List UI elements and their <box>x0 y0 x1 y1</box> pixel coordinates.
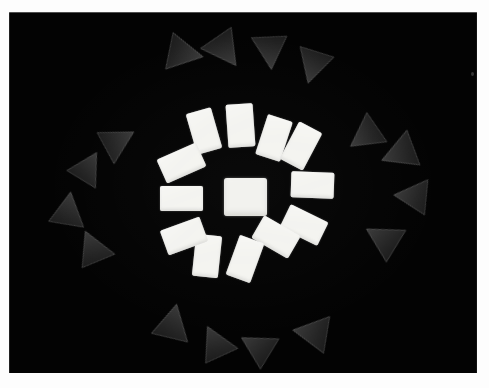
photograph <box>9 12 477 373</box>
triangle-right-4 <box>364 219 411 266</box>
triangle-left-4 <box>67 227 121 281</box>
triangle-bottom-3 <box>239 328 284 373</box>
triangle-top-2 <box>196 18 248 70</box>
triangle-bottom-4 <box>289 306 346 363</box>
triangle-top-4 <box>290 34 342 86</box>
rect-left-mid <box>160 186 203 211</box>
rect-bottom-1 <box>226 235 265 283</box>
triangle-right-3 <box>390 170 446 226</box>
rect-upper-left-2 <box>157 142 207 183</box>
rect-right-mid <box>291 171 335 198</box>
triangle-top-3 <box>243 17 299 73</box>
triangle-bottom-2 <box>190 322 243 373</box>
image-canvas <box>0 0 489 388</box>
triangle-left-2 <box>63 151 106 194</box>
rect-top-1 <box>226 103 256 148</box>
center-square <box>224 178 267 216</box>
dust-speck <box>471 72 474 76</box>
triangle-bottom-1 <box>142 301 198 357</box>
